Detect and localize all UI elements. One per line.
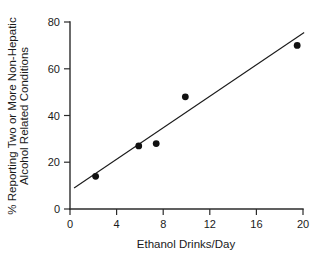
y-tick-label-80: 80: [48, 16, 60, 28]
y-axis-title: % Reporting Two or More Non-Hepatic Alco…: [6, 17, 30, 215]
y-tick-label-40: 40: [48, 110, 60, 122]
x-axis-tick-labels: 0 4 8 12 16 20: [67, 218, 309, 230]
y-axis-title-line1: % Reporting Two or More Non-Hepatic: [6, 17, 18, 215]
y-tick-label-20: 20: [48, 156, 60, 168]
y-axis-tick-labels: 80 60 40 20 0: [48, 16, 60, 215]
y-axis-ticks: [64, 22, 70, 209]
x-tick-label-20: 20: [297, 218, 309, 230]
x-axis-ticks: [70, 209, 303, 215]
y-axis-title-line2: Alcohol Related Conditions: [18, 47, 30, 185]
data-point-3: [182, 93, 189, 100]
x-tick-label-8: 8: [160, 218, 166, 230]
x-tick-label-0: 0: [67, 218, 73, 230]
x-tick-label-4: 4: [114, 218, 120, 230]
chart-figure: % Reporting Two or More Non-Hepatic Alco…: [0, 0, 321, 267]
trend-line: [74, 33, 304, 188]
scatter-plot: % Reporting Two or More Non-Hepatic Alco…: [0, 0, 321, 267]
data-point-0: [92, 173, 99, 180]
data-points: [92, 42, 300, 180]
x-tick-label-12: 12: [204, 218, 216, 230]
x-tick-label-16: 16: [250, 218, 262, 230]
data-point-1: [135, 142, 142, 149]
y-tick-label-60: 60: [48, 63, 60, 75]
y-tick-label-0: 0: [54, 203, 60, 215]
data-point-4: [294, 42, 301, 49]
x-axis-title: Ethanol Drinks/Day: [137, 238, 236, 250]
data-point-2: [153, 140, 160, 147]
